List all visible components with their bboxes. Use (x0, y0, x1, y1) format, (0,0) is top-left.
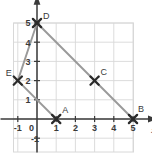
x-tick-label-0: 0 (29, 123, 34, 133)
y-tick-label-2: 2 (25, 76, 30, 86)
y-tick-label-5: 5 (25, 18, 30, 28)
y-tick-label-3: 3 (25, 57, 30, 67)
point-label-e: E (6, 68, 12, 78)
x-tick-label-4: 4 (111, 123, 116, 133)
point-label-d: D (43, 11, 50, 21)
x-axis-label: x (150, 125, 152, 135)
x-tick-label-5: 5 (130, 123, 135, 133)
x-tick-label-3: 3 (92, 123, 97, 133)
figure-canvas: ABCDE-1012345-112345xy (0, 0, 152, 157)
x-tick-label--1: -1 (14, 123, 22, 133)
y-tick-label-4: 4 (25, 38, 30, 48)
y-tick-label-neg1: -1 (31, 134, 39, 144)
point-label-c: C (101, 67, 108, 77)
x-tick-label-2: 2 (73, 123, 78, 133)
y-tick-label-1: 1 (25, 95, 30, 105)
x-tick-label-1: 1 (54, 123, 59, 133)
coordinate-plot: ABCDE-1012345-112345xy (0, 0, 152, 157)
point-label-a: A (62, 105, 68, 115)
point-label-b: B (138, 104, 144, 114)
